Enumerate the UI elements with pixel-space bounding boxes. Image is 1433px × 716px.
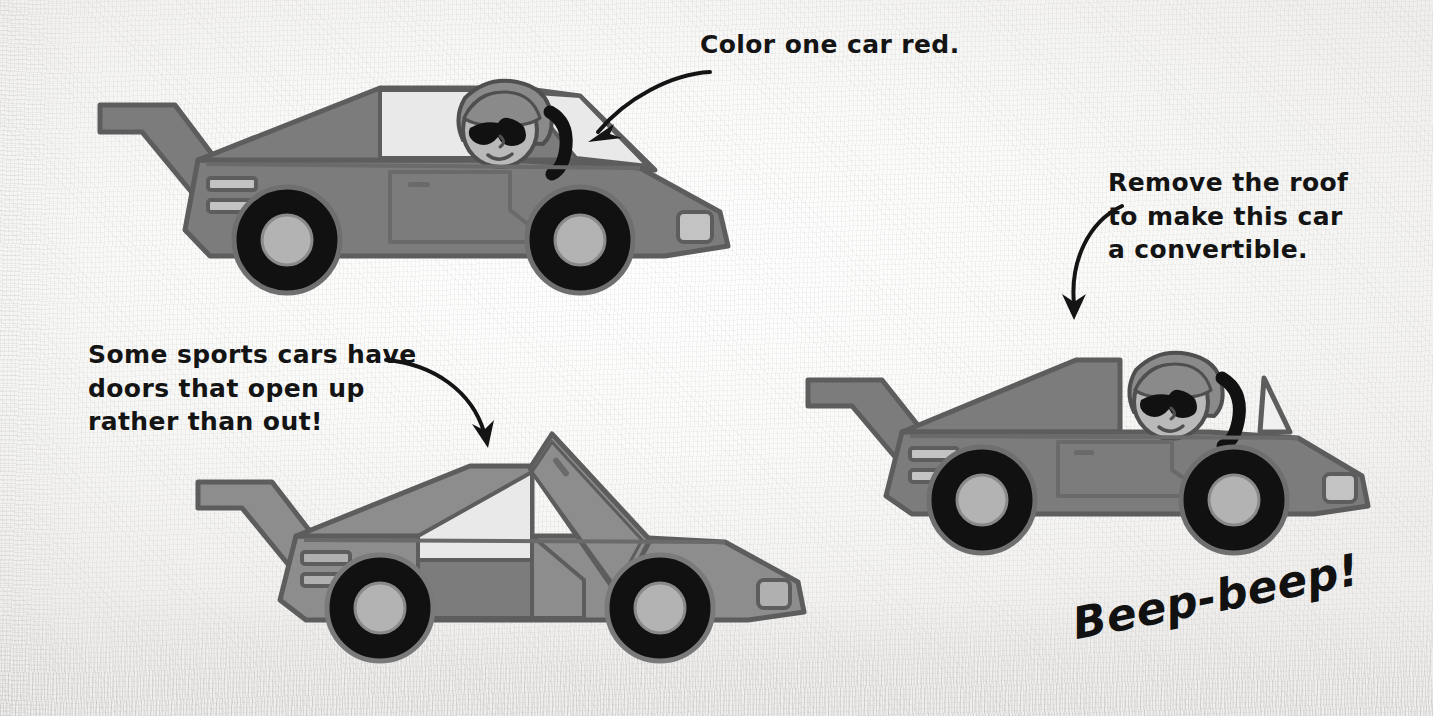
activity-page: Color one car red. Remove the roof to ma… — [0, 0, 1433, 716]
car-convertible[interactable] — [790, 320, 1390, 570]
callout-color-one-car-red: Color one car red. — [700, 28, 960, 62]
head-light — [678, 212, 712, 242]
head-light — [1324, 474, 1356, 502]
rear-deck-wedge — [902, 360, 1120, 432]
arrow-to-coupe-icon — [560, 60, 720, 160]
rear-wheel — [929, 447, 1035, 553]
rear-wheel — [234, 187, 340, 293]
callout-remove-the-roof: Remove the roof to make this car a conve… — [1108, 166, 1348, 267]
tail-light-upper — [302, 552, 350, 564]
body-crease-line — [304, 540, 725, 542]
head-light — [758, 580, 790, 608]
front-wheel — [607, 555, 713, 661]
paper-grain-left — [0, 0, 90, 716]
body-crease-line — [910, 436, 1298, 438]
callout-some-sports-cars: Some sports cars have doors that open up… — [88, 338, 417, 439]
door-handle — [1074, 450, 1094, 455]
front-wheel — [1181, 447, 1287, 553]
tail-light-upper — [208, 178, 256, 190]
door-handle — [408, 182, 430, 187]
front-wheel — [527, 187, 633, 293]
windshield — [1260, 378, 1290, 432]
rear-wheel — [327, 555, 433, 661]
